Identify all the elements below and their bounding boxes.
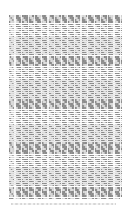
page-footer-line [11, 203, 116, 205]
body-text-block: Single page of dense justified body text… [9, 15, 122, 200]
text-line [9, 197, 122, 199]
document-page: Single page of dense justified body text… [0, 0, 131, 216]
